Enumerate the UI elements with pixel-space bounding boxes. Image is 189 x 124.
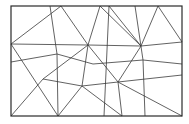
mesh-edge bbox=[61, 6, 88, 45]
mesh-edges bbox=[11, 6, 182, 116]
mesh-edge bbox=[118, 82, 182, 116]
mesh-edge bbox=[82, 45, 88, 86]
mesh-edge bbox=[135, 6, 143, 60]
polygon-mesh-diagram bbox=[0, 0, 189, 124]
mesh-edge bbox=[88, 45, 141, 46]
mesh-edge bbox=[141, 6, 158, 46]
mesh-edge bbox=[82, 82, 118, 86]
mesh-edge bbox=[141, 42, 182, 46]
mesh-edge bbox=[118, 75, 182, 82]
mesh-edge bbox=[57, 54, 58, 116]
mesh-edge bbox=[57, 54, 93, 64]
mesh-edge bbox=[118, 82, 122, 116]
mesh-edge bbox=[118, 46, 141, 82]
mesh-edge bbox=[43, 45, 88, 79]
mesh-edge bbox=[43, 79, 82, 86]
diagram-canvas bbox=[0, 0, 189, 124]
mesh-edge bbox=[11, 79, 43, 116]
mesh-edge bbox=[104, 6, 109, 116]
mesh-edge bbox=[100, 6, 141, 46]
mesh-edge bbox=[158, 6, 182, 42]
mesh-edge bbox=[58, 86, 82, 116]
mesh-edge bbox=[11, 6, 61, 44]
mesh-edge bbox=[88, 6, 100, 45]
mesh-edge bbox=[11, 44, 88, 45]
mesh-edge bbox=[82, 86, 122, 116]
mesh-edge bbox=[143, 60, 145, 116]
mesh-edge bbox=[50, 6, 57, 54]
mesh-edge bbox=[143, 60, 182, 64]
